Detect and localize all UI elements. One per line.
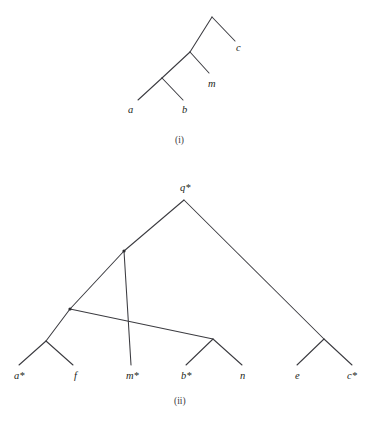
edge-root-to-c (212, 17, 235, 41)
panel-ii-edges (19, 200, 352, 365)
edge-ec-to-cstar (324, 339, 352, 365)
leaf-label-n: n (240, 370, 245, 381)
node-label-q-star: q* (180, 182, 191, 193)
edge-bn-to-n (213, 339, 242, 365)
edge-internal1-to-internal2 (162, 52, 190, 78)
leaf-label-f: f (74, 370, 79, 381)
panel-ii-node-labels: q* (180, 182, 191, 193)
edge-af-to-astar (19, 341, 46, 365)
edge-internal1-to-m (190, 52, 209, 73)
tree-diagram-canvas: a b m c (i) (0, 0, 373, 427)
panel-ii-group: q* a* f m* b* n e c* (ii) (14, 182, 358, 407)
leaf-label-m-star: m* (126, 370, 140, 381)
leaf-label-a: a (128, 104, 133, 115)
edge-star1-to-star2 (70, 251, 124, 309)
edge-root-to-star1 (124, 200, 184, 251)
figure-root: a b m c (i) (0, 0, 373, 427)
caption-panel-i: (i) (175, 135, 184, 146)
edge-star2-to-bn (70, 309, 213, 339)
node-dot-star-2 (68, 307, 71, 310)
panel-ii-leaf-labels: a* f m* b* n e c* (14, 370, 358, 381)
caption-panel-ii: (ii) (174, 396, 186, 407)
edge-root-to-ec (184, 200, 324, 339)
edge-bn-to-bstar (186, 339, 213, 365)
edge-internal2-to-a (138, 78, 162, 100)
leaf-label-b: b (182, 104, 187, 115)
panel-i-edges (138, 17, 235, 100)
leaf-label-e: e (295, 370, 300, 381)
panel-i-group: a b m c (i) (128, 17, 241, 146)
leaf-label-c: c (236, 42, 241, 53)
edge-root-to-internal1 (190, 17, 212, 52)
edge-af-to-f (46, 341, 73, 365)
edge-star2-to-af (46, 309, 70, 341)
node-dot-star-1 (122, 249, 125, 252)
edge-internal2-to-b (162, 78, 183, 100)
panel-i-leaf-labels: a b m c (128, 42, 241, 115)
leaf-label-a-star: a* (14, 370, 25, 381)
edge-star1-to-mstar (124, 251, 131, 365)
edge-ec-to-e (297, 339, 324, 365)
leaf-label-b-star: b* (181, 370, 192, 381)
leaf-label-c-star: c* (347, 370, 358, 381)
leaf-label-m: m (208, 78, 216, 89)
